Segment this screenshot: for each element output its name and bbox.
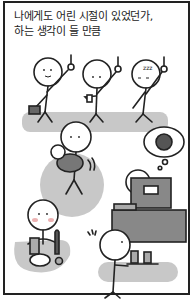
server-shade bbox=[98, 262, 178, 282]
comic-illustration: zzz bbox=[0, 0, 196, 301]
worker-at-computer bbox=[112, 127, 186, 242]
sleep-text: zzz bbox=[143, 64, 152, 71]
